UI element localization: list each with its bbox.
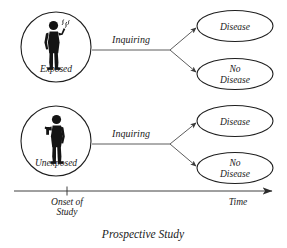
group-unexposed: Unexposed Inquiring Disease No Disease (21, 106, 273, 184)
edge-exposed-to-no-disease (170, 50, 196, 72)
label-exposed-no-disease-line2: Disease (219, 75, 250, 85)
diagram-canvas: Exposed Inquiring Disease No Disease (0, 0, 287, 248)
label-onset-line1: Onset of (51, 197, 84, 207)
edge-exposed-to-disease (170, 28, 196, 50)
label-inquiring-unexposed: Inquiring (111, 128, 150, 139)
smoke-wisp-icon (62, 20, 69, 28)
label-unexposed-no-disease-line1: No (228, 158, 240, 168)
label-onset-line2: Study (56, 207, 78, 217)
label-time: Time (229, 197, 247, 207)
label-unexposed-disease: Disease (219, 117, 250, 127)
label-inquiring-exposed: Inquiring (111, 34, 150, 45)
prospective-study-diagram: Exposed Inquiring Disease No Disease (0, 0, 287, 248)
label-unexposed-no-disease-line2: Disease (219, 169, 250, 179)
label-exposed-disease: Disease (219, 22, 250, 32)
edge-unexposed-to-disease (170, 123, 196, 144)
label-unexposed: Unexposed (35, 158, 77, 168)
label-exposed: Exposed (39, 64, 72, 74)
edge-unexposed-to-no-disease (170, 144, 196, 166)
label-exposed-no-disease-line1: No (228, 64, 240, 74)
time-axis: Onset of Study Time (14, 187, 272, 218)
figure-caption: Prospective Study (101, 228, 185, 241)
group-exposed: Exposed Inquiring Disease No Disease (21, 11, 273, 90)
